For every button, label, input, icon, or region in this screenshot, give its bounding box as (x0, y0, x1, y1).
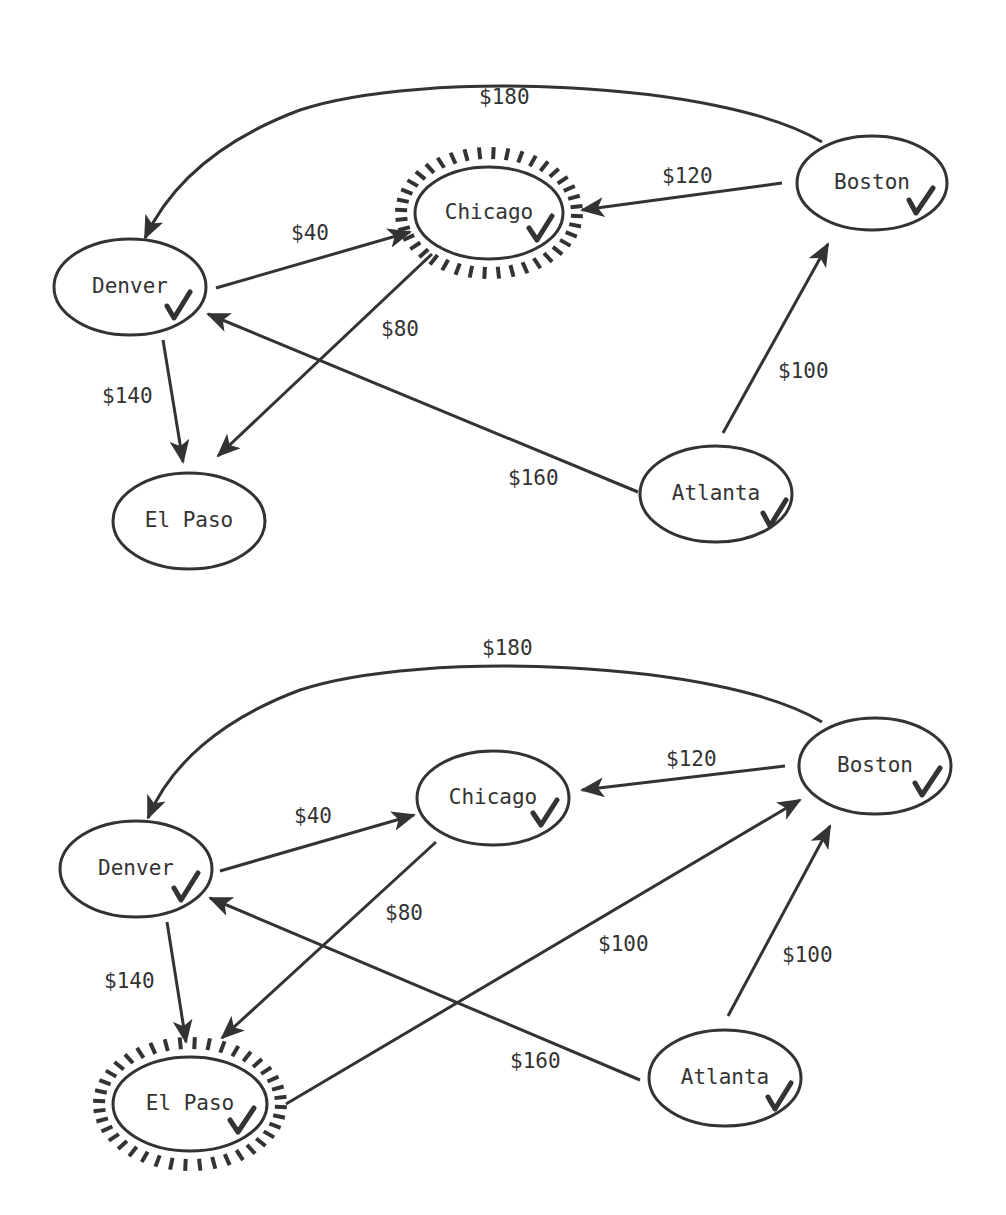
edge-cost-label: $180 (482, 636, 533, 660)
edge-cost-label: $80 (381, 317, 419, 341)
node-boston[interactable]: Boston (799, 718, 951, 814)
node-label: Atlanta (681, 1065, 770, 1089)
edge-cost-label: $40 (291, 221, 329, 245)
node-label: El Paso (145, 508, 234, 532)
node-label: Chicago (445, 200, 534, 224)
edge-cost-label: $160 (508, 466, 559, 490)
edge-atlanta-boston (728, 826, 830, 1016)
edge-chicago-elpaso (222, 842, 436, 1038)
node-label: Boston (837, 753, 913, 777)
edge-cost-label: $100 (598, 932, 649, 956)
edge-cost-label: $80 (385, 901, 423, 925)
diagram-bottom: $180 $120 $40 $80 $140 $160 $100 $100 De… (60, 636, 951, 1171)
node-label: El Paso (146, 1091, 235, 1115)
node-chicago[interactable]: Chicago (417, 751, 569, 845)
node-boston[interactable]: Boston (797, 136, 947, 230)
edge-cost-label: $160 (510, 1049, 561, 1073)
diagram-top: $180 $120 $40 $80 $140 $160 $100 Denver … (54, 85, 947, 569)
edge-cost-label: $100 (778, 359, 829, 383)
node-label: Denver (98, 856, 174, 880)
edge-cost-label: $120 (662, 164, 713, 188)
edge-denver-elpaso (167, 922, 186, 1042)
node-chicago[interactable]: Chicago (415, 167, 563, 259)
edge-cost-label: $100 (782, 943, 833, 967)
node-denver[interactable]: Denver (54, 239, 206, 335)
graph-canvas: $180 $120 $40 $80 $140 $160 $100 Denver … (0, 0, 1006, 1215)
node-label: Atlanta (672, 481, 761, 505)
edge-cost-label: $40 (294, 804, 332, 828)
node-label: Chicago (449, 785, 538, 809)
node-label: Denver (92, 274, 168, 298)
node-atlanta[interactable]: Atlanta (640, 446, 792, 542)
edge-cost-label: $140 (102, 384, 153, 408)
node-elpaso[interactable]: El Paso (113, 1057, 267, 1151)
node-elpaso[interactable]: El Paso (113, 473, 265, 569)
edge-cost-label: $120 (666, 747, 717, 771)
edge-atlanta-boston (723, 244, 828, 433)
edge-denver-elpaso (163, 340, 183, 462)
node-label: Boston (834, 170, 910, 194)
edge-chicago-elpaso (218, 254, 432, 456)
edge-cost-label: $140 (104, 969, 155, 993)
node-atlanta[interactable]: Atlanta (649, 1030, 801, 1126)
node-denver[interactable]: Denver (60, 821, 212, 917)
edge-cost-label: $180 (479, 85, 530, 109)
